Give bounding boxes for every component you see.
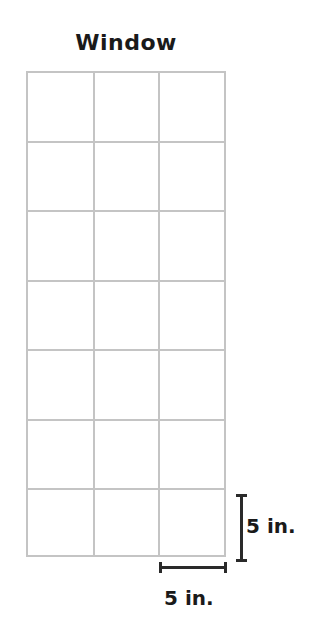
- window-grid: [26, 71, 226, 557]
- height-dimension-label: 5 in.: [246, 514, 296, 538]
- grid-row-divider: [28, 349, 224, 351]
- grid-row-divider: [28, 141, 224, 143]
- grid-row-divider: [28, 210, 224, 212]
- grid-row-divider: [28, 419, 224, 421]
- diagram-title: Window: [0, 30, 252, 55]
- grid-column-divider: [93, 73, 95, 555]
- grid-column-divider: [158, 73, 160, 555]
- grid-row-divider: [28, 280, 224, 282]
- width-dimension-marker: [159, 562, 227, 572]
- height-dimension-marker: [236, 494, 246, 562]
- width-dimension-label: 5 in.: [164, 586, 214, 610]
- grid-row-divider: [28, 488, 224, 490]
